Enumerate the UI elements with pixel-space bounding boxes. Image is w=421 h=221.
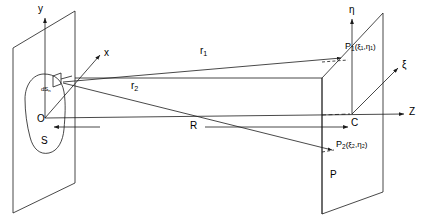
ray-r2-subscript: 2 xyxy=(134,84,138,93)
distance-r-label: R xyxy=(190,121,197,131)
ray-r1-subscript: 1 xyxy=(203,49,207,58)
ray-r1-label: r1 xyxy=(200,46,207,57)
point-p1-label: P1(ξ₁,η₁) xyxy=(345,42,376,52)
area-element-rect xyxy=(53,73,61,87)
ray-r2-label: r2 xyxy=(131,81,138,92)
source-plane-outline xyxy=(13,11,75,213)
area-element-subscript: n xyxy=(48,88,50,93)
figure-canvas: y x Z η ξ O S C P R r1 r2 dSn P1(ξ₁,η₁) … xyxy=(0,0,421,221)
area-element-label: dSn xyxy=(41,86,51,94)
p2-projection-dashed xyxy=(322,150,334,152)
point-p2-coords: (ξ₂,η₂) xyxy=(346,140,368,149)
center-label: C xyxy=(351,118,358,128)
x-axis-label: x xyxy=(104,48,109,58)
ray-r2 xyxy=(63,83,332,150)
origin-label: O xyxy=(37,114,45,124)
z-axis-label: Z xyxy=(409,107,415,117)
point-p1-coords: (ξ₁,η₁) xyxy=(355,42,376,51)
xi-axis-label: ξ xyxy=(402,60,406,70)
p1-projection-dashed xyxy=(322,60,348,62)
point-p2-label: P2(ξ₂,η₂) xyxy=(336,140,367,150)
y-axis-label: y xyxy=(38,4,43,14)
eta-axis-label: η xyxy=(349,5,355,15)
area-element-normal xyxy=(61,76,72,79)
surface-label: S xyxy=(41,136,48,146)
diagram-vector-layer xyxy=(0,0,421,221)
observation-plane-label: P xyxy=(330,170,337,180)
xi-axis xyxy=(352,68,398,114)
